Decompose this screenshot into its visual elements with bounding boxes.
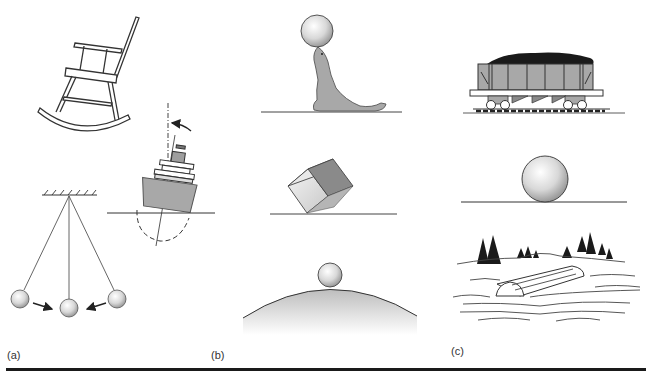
cube-on-edge-icon (270, 159, 397, 214)
ball-on-flat-surface-icon (461, 156, 627, 202)
panel-label-b: (b) (211, 349, 224, 361)
rocking-chair-icon (38, 17, 139, 131)
panel-label-c: (c) (451, 345, 464, 357)
figure-drawing (0, 0, 648, 376)
coal-hopper-car-icon (463, 53, 625, 113)
panel-label-a: (a) (7, 349, 20, 361)
ball-on-hill-icon (243, 263, 417, 335)
figure-bottom-rule (6, 368, 646, 371)
equilibrium-figure: (a) (b) (c) (0, 0, 648, 376)
tilting-ship-icon (107, 103, 215, 246)
floating-log-icon (453, 232, 640, 321)
seal-balancing-ball-icon (261, 15, 402, 112)
pendulum-icon (11, 190, 126, 317)
